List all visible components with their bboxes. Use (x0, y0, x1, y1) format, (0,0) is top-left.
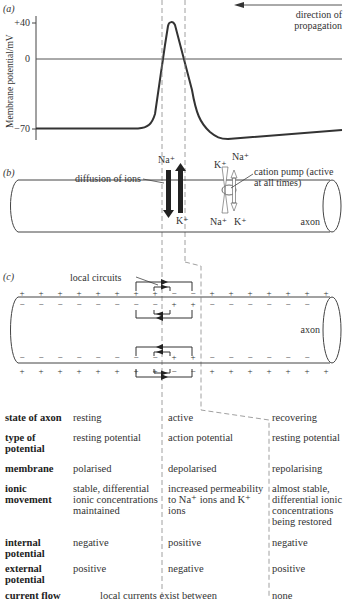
svg-text:−: − (209, 299, 214, 309)
svg-text:−: − (152, 352, 157, 362)
svg-text:+: + (190, 352, 195, 362)
axon-label-b: axon (301, 216, 320, 227)
axon-label-c: axon (301, 324, 320, 335)
svg-text:+: + (247, 288, 252, 298)
svg-text:+: + (171, 299, 176, 309)
tick-zero: 0 (25, 53, 30, 64)
svg-text:+: + (152, 366, 157, 376)
membrane-potential-curve (36, 22, 342, 139)
svg-text:+: + (19, 366, 24, 376)
cell-recovering: negative (272, 537, 350, 548)
cell-active: depolarised (168, 463, 270, 474)
svg-text:−: − (76, 352, 81, 362)
svg-text:+: + (114, 288, 119, 298)
svg-text:+: + (95, 288, 100, 298)
svg-text:−: − (209, 352, 214, 362)
cell-resting: positive (73, 563, 165, 574)
svg-text:−: − (57, 352, 62, 362)
svg-text:+: + (76, 366, 81, 376)
svg-text:+: + (171, 352, 176, 362)
svg-text:−: − (95, 299, 100, 309)
na-label-top: Na⁺ (158, 154, 175, 165)
svg-text:+: + (57, 288, 62, 298)
svg-text:+: + (247, 366, 252, 376)
na-influx-arrow (166, 170, 171, 210)
svg-text:+: + (38, 288, 43, 298)
local-circuits-label: local circuits (70, 272, 121, 283)
y-axis-label: Membrane potential/mV (5, 34, 15, 128)
svg-text:−: − (152, 299, 157, 309)
cell-recovering: none (272, 590, 350, 601)
svg-text:+: + (304, 366, 309, 376)
svg-text:+: + (228, 366, 233, 376)
svg-text:−: − (76, 299, 81, 309)
pump-label-2: at all times) (254, 177, 301, 189)
cell-resting: resting (73, 412, 165, 423)
svg-text:+: + (152, 288, 157, 298)
panel-c-axon: (c) local circuits axon ++++++++ −− ++++… (3, 271, 341, 380)
k-label-bottom: K⁺ (176, 215, 189, 226)
cell-recovering: positive (272, 563, 350, 574)
cell-active: increased permeability to Na⁺ ions and K… (168, 483, 270, 516)
svg-text:−: − (114, 299, 119, 309)
svg-text:−: − (38, 352, 43, 362)
svg-text:−: − (38, 299, 43, 309)
svg-text:−: − (247, 352, 252, 362)
svg-text:−: − (228, 352, 233, 362)
svg-text:−: − (190, 288, 195, 298)
svg-text:−: − (171, 288, 176, 298)
row-header: type of potential (5, 432, 71, 454)
svg-text:−: − (285, 352, 290, 362)
svg-text:−: − (304, 352, 309, 362)
tick-minus70: −70 (14, 123, 30, 134)
arrow-up-icon (175, 163, 186, 171)
svg-text:−: − (247, 299, 252, 309)
cell-resting: resting potential (73, 432, 165, 443)
svg-text:+: + (323, 366, 328, 376)
svg-text:+: + (209, 288, 214, 298)
row-header: ionic movement (5, 483, 71, 505)
svg-text:+: + (209, 366, 214, 376)
svg-text:+: + (95, 366, 100, 376)
cell-active: action potential (168, 432, 270, 443)
row-header: internal potential (5, 537, 71, 559)
row-header: membrane (5, 463, 71, 474)
cell-active: active (168, 412, 270, 423)
pump-na-bottom: Na⁺ (210, 216, 227, 227)
diffusion-label: diffusion of ions (75, 173, 141, 184)
svg-text:+: + (57, 366, 62, 376)
cell-recovering: repolarising (272, 463, 350, 474)
panel-b-axon: (b) axon Na⁺ K⁺ diffusion of ions K⁺ Na⁺… (3, 151, 341, 232)
svg-text:+: + (285, 288, 290, 298)
svg-text:−: − (266, 299, 271, 309)
direction-label-1: direction of (296, 9, 343, 20)
svg-text:+: + (19, 288, 24, 298)
cell-resting: negative (73, 537, 165, 548)
svg-text:+: + (114, 366, 119, 376)
cell-resting-active: local currents exist between (100, 590, 270, 601)
cell-recovering: almost stable, differential ionic concen… (272, 483, 350, 527)
row-header: external potential (5, 563, 71, 585)
svg-text:+: + (190, 299, 195, 309)
panel-c-label: (c) (3, 271, 15, 283)
svg-text:−: − (133, 299, 138, 309)
svg-text:+: + (285, 366, 290, 376)
arrow-left-icon (234, 2, 244, 8)
svg-text:−: − (19, 352, 24, 362)
svg-text:−: − (19, 299, 24, 309)
cell-resting: polarised (73, 463, 165, 474)
svg-text:+: + (266, 366, 271, 376)
row-header: current flow (5, 590, 71, 601)
direction-label-2: propagation (294, 20, 342, 31)
cell-active: positive (168, 537, 270, 548)
svg-text:−: − (57, 299, 62, 309)
k-efflux-arrow (178, 171, 183, 213)
cell-active: negative (168, 563, 270, 574)
row-header: state of axon (5, 412, 71, 423)
panel-b-label: (b) (3, 167, 15, 179)
cell-recovering: recovering (272, 412, 350, 423)
cell-resting: stable, differential ionic concentration… (73, 483, 165, 516)
svg-text:−: − (228, 299, 233, 309)
svg-text:−: − (114, 352, 119, 362)
cell-recovering: resting potential (272, 432, 350, 443)
